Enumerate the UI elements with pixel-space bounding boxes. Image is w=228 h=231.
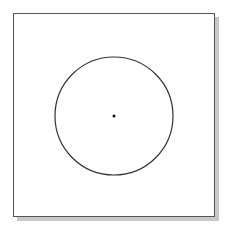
diagram-canvas [0,0,228,231]
center-point [113,115,116,118]
